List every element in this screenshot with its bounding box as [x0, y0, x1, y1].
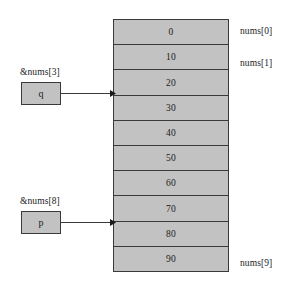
array-index-label-0: nums[0] — [240, 26, 272, 36]
pointer-caption-p: &nums[8] — [20, 196, 60, 206]
array-cell: 80 — [114, 222, 228, 247]
pointer-label-p: p — [39, 217, 44, 228]
array-index-label-1: nums[1] — [240, 58, 272, 68]
array-cell: 20 — [114, 70, 228, 95]
array-cell: 0 — [114, 20, 228, 45]
array-cell: 60 — [114, 171, 228, 196]
array-cell: 70 — [114, 196, 228, 221]
pointer-label-q: q — [39, 88, 44, 99]
array-cell: 50 — [114, 146, 228, 171]
array-column: 0 10 20 30 40 50 60 70 80 90 — [113, 19, 229, 272]
pointer-array-diagram: 0 10 20 30 40 50 60 70 80 90 nums[0] num… — [0, 0, 300, 295]
array-cell: 10 — [114, 45, 228, 70]
array-cell: 40 — [114, 121, 228, 146]
array-cell: 30 — [114, 96, 228, 121]
pointer-box-p: p — [21, 211, 61, 234]
array-cell: 90 — [114, 247, 228, 271]
pointer-arrow-p-icon — [60, 218, 116, 227]
pointer-box-q: q — [21, 82, 61, 105]
pointer-caption-q: &nums[3] — [20, 67, 60, 77]
pointer-arrow-q-icon — [60, 89, 116, 98]
array-index-label-9: nums[9] — [240, 258, 272, 268]
